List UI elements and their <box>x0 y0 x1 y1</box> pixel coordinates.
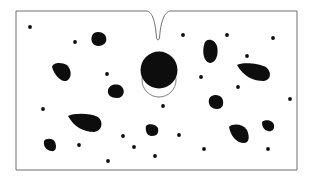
particle <box>237 63 270 81</box>
dot <box>41 107 45 111</box>
dot <box>132 145 136 149</box>
particle <box>44 139 56 151</box>
specimen-diagram <box>0 0 312 178</box>
dot <box>271 36 275 40</box>
dot <box>225 33 229 37</box>
dot <box>266 147 270 151</box>
particle <box>146 124 159 136</box>
particles-group <box>44 32 274 151</box>
dot <box>177 133 181 137</box>
dot <box>199 75 203 79</box>
dot <box>106 159 110 163</box>
dot <box>153 154 157 158</box>
particle <box>108 85 124 98</box>
particle <box>229 125 249 143</box>
particle <box>91 32 106 46</box>
dot <box>121 134 125 138</box>
dot <box>161 104 165 108</box>
dot <box>181 33 185 37</box>
particle <box>262 120 274 131</box>
dot <box>105 72 109 76</box>
dot <box>73 40 77 44</box>
dot <box>202 147 206 151</box>
dot <box>288 97 292 101</box>
dot <box>245 54 249 58</box>
particle <box>203 40 217 63</box>
particle <box>209 95 223 109</box>
dot <box>28 25 32 29</box>
inclusion-solid-circle <box>141 52 178 89</box>
particle <box>52 63 71 81</box>
dot <box>236 85 240 89</box>
specimen-outline <box>16 11 297 170</box>
dots-group <box>28 25 292 163</box>
particle <box>68 114 101 132</box>
dot <box>77 143 81 147</box>
